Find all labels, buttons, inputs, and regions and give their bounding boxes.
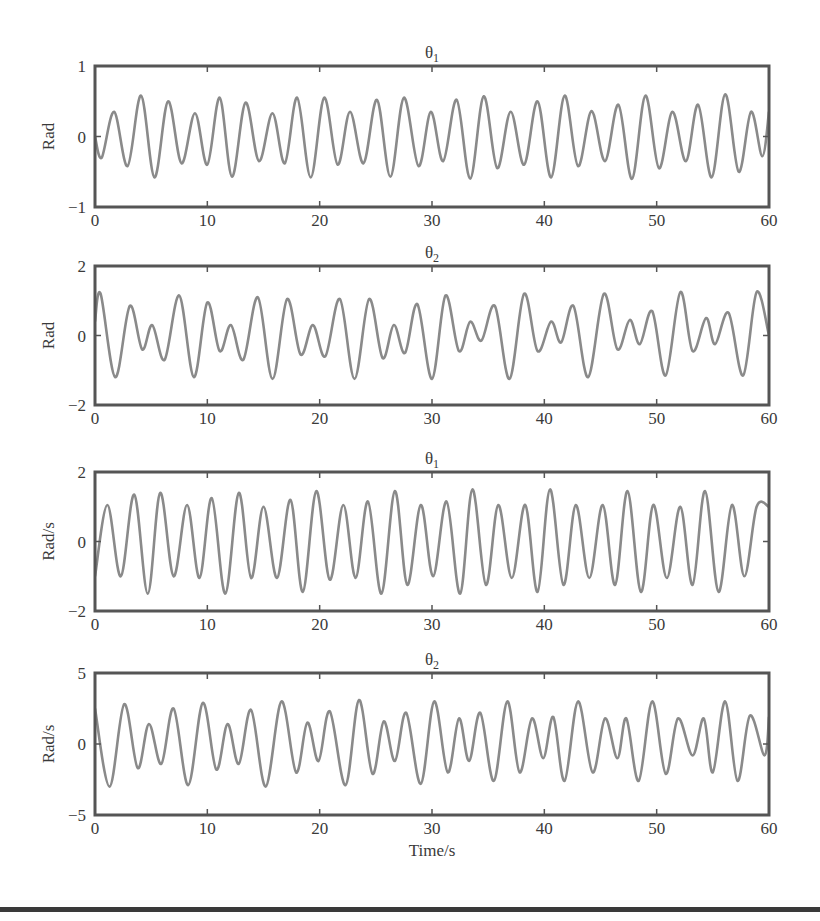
x-tick-label: 30 [424,819,441,838]
subplot-2: 0102030405060−202Radθ2 [39,243,778,428]
axes-box [95,266,769,405]
y-tick-label: −1 [68,198,86,217]
series-line [95,291,769,379]
x-tick-label: 0 [91,615,100,634]
x-tick-label: 50 [648,819,665,838]
x-tick-label: 20 [311,819,328,838]
x-tick-label: 10 [199,819,216,838]
x-tick-label: 50 [648,615,665,634]
x-tick-label: 60 [761,615,778,634]
x-tick-label: 10 [199,211,216,230]
x-tick-label: 20 [311,211,328,230]
y-tick-label: 2 [78,463,87,482]
subplot-title: θ2 [425,243,439,265]
y-tick-label: 0 [78,327,87,346]
subplot-title: θ1 [425,449,439,471]
subplot-4: 0102030405060−505Rad/sθ2Time/s [39,650,778,860]
y-tick-label: 0 [78,128,87,147]
y-tick-label: 0 [78,533,87,552]
x-tick-label: 60 [761,211,778,230]
y-axis-label: Rad [39,321,58,349]
x-tick-label: 20 [311,615,328,634]
series-line [95,700,769,787]
x-tick-label: 0 [91,409,100,428]
subplot-title: θ1 [425,43,439,65]
y-tick-label: −2 [68,396,86,415]
x-tick-label: 10 [199,409,216,428]
x-tick-label: 60 [761,409,778,428]
x-tick-label: 40 [536,211,553,230]
x-tick-label: 30 [424,211,441,230]
x-tick-label: 50 [648,409,665,428]
bottom-rule [0,907,820,912]
x-tick-label: 10 [199,615,216,634]
y-tick-label: 2 [78,257,87,276]
x-tick-label: 40 [536,615,553,634]
x-tick-label: 60 [761,819,778,838]
x-tick-label: 30 [424,615,441,634]
y-tick-label: 5 [78,664,87,683]
subplot-title: θ2 [425,650,439,672]
y-tick-label: −5 [68,806,86,825]
series-line [95,94,769,179]
subplot-3: 0102030405060−202Rad/sθ1 [39,449,778,634]
axes-box [95,66,769,207]
y-tick-label: 1 [78,57,87,76]
x-tick-label: 20 [311,409,328,428]
x-tick-label: 40 [536,409,553,428]
x-tick-label: 30 [424,409,441,428]
y-axis-label: Rad/s [39,725,58,764]
x-tick-label: 0 [91,819,100,838]
x-axis-label: Time/s [409,841,456,860]
y-axis-label: Rad [39,122,58,150]
x-tick-label: 40 [536,819,553,838]
series-line [95,489,769,593]
figure: 0102030405060−101Radθ10102030405060−202R… [0,0,820,921]
y-tick-label: −2 [68,602,86,621]
y-axis-label: Rad/s [39,522,58,561]
axes-box [95,472,769,611]
x-tick-label: 50 [648,211,665,230]
y-tick-label: 0 [78,735,87,754]
subplot-1: 0102030405060−101Radθ1 [39,43,778,230]
x-tick-label: 0 [91,211,100,230]
